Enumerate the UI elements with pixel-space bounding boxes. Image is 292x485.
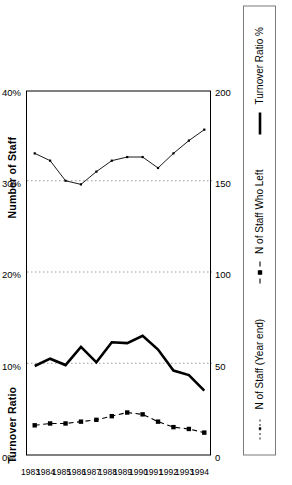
year-tick-1994: 1994	[190, 466, 209, 476]
data-point-marker	[34, 152, 36, 154]
data-point-marker	[125, 410, 129, 414]
data-point-marker	[33, 423, 37, 427]
data-point-marker	[80, 183, 82, 185]
data-point-marker	[49, 159, 51, 161]
data-point-marker	[156, 419, 160, 423]
legend-item-0[interactable]: N of Staff (Year end)	[254, 318, 266, 440]
data-point-marker	[63, 421, 67, 425]
data-point-marker	[203, 128, 205, 130]
chart-figure: Turnover Ratio Number of Staff 0%10%20%3…	[0, 0, 292, 485]
turnover-ratio-tick-40pct: 40%	[2, 86, 21, 97]
legend-symbol-thin-dotted-line-marker	[254, 416, 266, 440]
data-point-marker	[188, 139, 190, 141]
legend-label: N of Staff (Year end)	[254, 318, 265, 409]
number-of-staff-tick-0: 0	[215, 451, 220, 462]
data-point-marker	[95, 170, 97, 172]
number-of-staff-tick-50: 50	[215, 360, 226, 371]
number-of-staff-tick-100: 100	[215, 269, 231, 280]
legend-item-1[interactable]: N of Staff Who Left	[254, 169, 266, 284]
turnover-ratio-tick-20pct: 20%	[2, 269, 21, 280]
series-layer	[27, 89, 212, 454]
data-point-marker	[140, 412, 144, 416]
turnover-ratio-tick-0pct: 0%	[2, 451, 16, 462]
data-point-marker	[172, 152, 174, 154]
turnover-ratio-tick-10pct: 10%	[2, 360, 21, 371]
series-paths	[33, 128, 207, 434]
data-point-marker	[48, 421, 52, 425]
data-point-marker	[126, 155, 128, 157]
series-line	[35, 129, 205, 184]
number-of-staff-tick-150: 150	[215, 177, 231, 188]
data-point-marker	[110, 413, 114, 417]
data-point-marker	[202, 430, 206, 434]
data-point-marker	[94, 417, 98, 421]
data-point-marker	[171, 424, 175, 428]
series-line	[35, 412, 205, 432]
chart-screenshot: Turnover Ratio Number of Staff 0%10%20%3…	[0, 0, 292, 485]
legend-label: Turnover Ratio %	[254, 27, 265, 104]
chart-legend: N of Staff (Year end)N of Staff Who Left…	[243, 5, 276, 455]
legend-symbol-dashed-line-square-marker	[254, 260, 266, 284]
legend-symbol-thick-solid-line	[254, 111, 266, 135]
data-point-marker	[79, 419, 83, 423]
number-of-staff-tick-200: 200	[215, 86, 231, 97]
gridlines	[27, 180, 212, 363]
legend-entries: N of Staff (Year end)N of Staff Who Left…	[244, 6, 275, 454]
data-point-marker	[187, 426, 191, 430]
data-point-marker	[142, 155, 144, 157]
data-point-marker	[111, 159, 113, 161]
turnover-ratio-tick-30pct: 30%	[2, 177, 21, 188]
legend-label: N of Staff Who Left	[254, 169, 265, 253]
legend-item-2[interactable]: Turnover Ratio %	[254, 27, 266, 135]
plot-area	[26, 90, 211, 455]
